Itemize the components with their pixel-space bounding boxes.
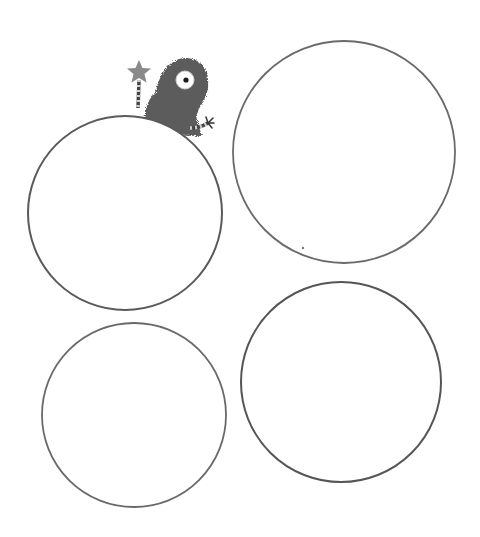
monster-body — [144, 58, 208, 136]
answer-circle-bottom-right — [241, 282, 441, 482]
stray-dot — [302, 247, 304, 249]
monster-hand-icon — [206, 117, 214, 128]
answer-circle-top-left — [28, 116, 222, 310]
worksheet-canvas — [0, 0, 480, 537]
star-wand-icon — [127, 60, 151, 108]
monster-eye-icon — [176, 71, 194, 89]
answer-circle-top-right — [233, 41, 455, 263]
answer-circle-bottom-left — [42, 323, 226, 507]
monster-illustration — [127, 58, 214, 136]
